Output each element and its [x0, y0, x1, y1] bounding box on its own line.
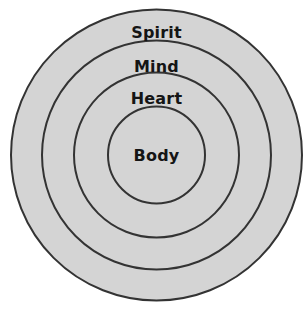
- ring-label-heart: Heart: [131, 89, 183, 108]
- diagram-canvas: Spirit Mind Heart Body: [0, 0, 308, 313]
- concentric-circles-diagram: Spirit Mind Heart Body: [0, 0, 308, 313]
- ring-label-body: Body: [134, 146, 180, 165]
- ring-label-mind: Mind: [134, 57, 179, 76]
- ring-label-spirit: Spirit: [131, 23, 182, 42]
